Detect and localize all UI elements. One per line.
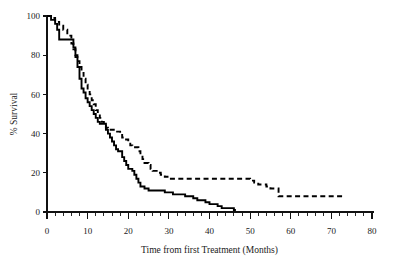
x-tick-label: 70 <box>327 226 337 236</box>
survival-curve-solid <box>47 16 236 210</box>
x-tick-label: 30 <box>164 226 174 236</box>
x-tick-label: 80 <box>368 226 378 236</box>
y-tick-label: 0 <box>36 207 41 217</box>
x-tick-label: 10 <box>83 226 93 236</box>
survival-chart-figure: 020406080100 01020304050607080 Time from… <box>0 0 394 258</box>
y-axis-tick-labels: 020406080100 <box>27 11 41 217</box>
y-axis-title: % Survival <box>9 92 19 135</box>
x-axis-title: Time from first Treatment (Months) <box>141 245 278 256</box>
y-tick-label: 80 <box>31 50 41 60</box>
chart-canvas: 020406080100 01020304050607080 Time from… <box>0 0 394 258</box>
y-tick-label: 60 <box>31 90 41 100</box>
x-tick-label: 20 <box>124 226 134 236</box>
x-tick-label: 40 <box>205 226 215 236</box>
x-tick-label: 0 <box>45 226 50 236</box>
x-tick-label: 60 <box>286 226 296 236</box>
y-tick-label: 20 <box>31 168 41 178</box>
x-tick-label: 50 <box>246 226 256 236</box>
y-tick-label: 100 <box>27 11 41 21</box>
y-tick-label: 40 <box>31 129 41 139</box>
x-axis-tick-labels: 01020304050607080 <box>45 226 377 236</box>
